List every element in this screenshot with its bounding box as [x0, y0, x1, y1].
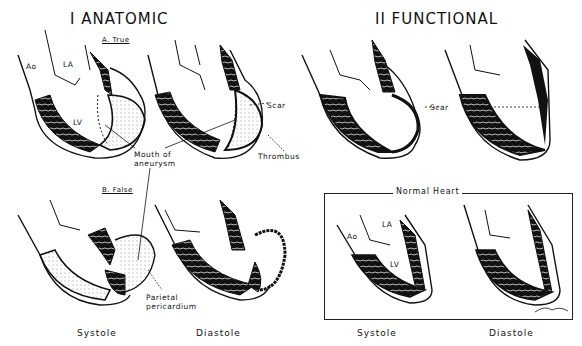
normal-heart-box	[324, 193, 573, 320]
thrombus-label: Thrombus	[258, 152, 300, 161]
anatomic-title: I ANATOMIC	[70, 10, 169, 28]
normal-left-atrium-label: LA	[382, 220, 392, 229]
functional-systole-heart	[302, 40, 420, 158]
aorta-label: Ao	[26, 62, 37, 71]
normal-left-ventricle-label: LV	[390, 260, 400, 269]
left-atrium-label: LA	[63, 60, 73, 69]
right-systole-caption: Systole	[357, 328, 397, 338]
mouth-of-aneurysm-label-2: aneurysm	[134, 159, 175, 168]
left-systole-caption: Systole	[77, 328, 117, 338]
parietal-pericardium-label-1: Parietal	[146, 293, 178, 302]
functional-diastole-heart	[425, 40, 550, 160]
true-aneurysm-diastole-heart	[148, 40, 262, 158]
true-aneurysm-label: A. True	[102, 36, 129, 44]
normal-heart-title: Normal Heart	[393, 187, 462, 196]
false-aneurysm-label: B. False	[102, 186, 133, 194]
left-diastole-caption: Diastole	[196, 328, 241, 338]
false-aneurysm-diastole-heart	[155, 200, 285, 300]
false-aneurysm-systole-heart	[18, 200, 162, 305]
parietal-pericardium-label-2: pericardium	[146, 302, 197, 311]
right-diastole-caption: Diastole	[489, 328, 534, 338]
scar-label-left: Scar	[267, 101, 286, 110]
true-aneurysm-systole-heart	[18, 30, 145, 158]
mouth-of-aneurysm-label-1: Mouth of	[134, 150, 171, 159]
functional-title: II FUNCTIONAL	[375, 10, 498, 28]
normal-aorta-label: Ao	[347, 232, 358, 241]
left-ventricle-label: LV	[73, 118, 83, 127]
scar-label-right: Scar	[430, 103, 449, 112]
